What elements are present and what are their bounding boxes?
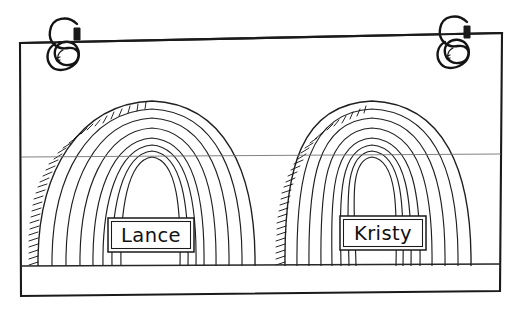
banner-sketch-svg: Lance Kristy — [0, 0, 520, 317]
hook-left-shadow — [74, 28, 80, 40]
plaque-left[interactable]: Lance — [108, 218, 194, 252]
drawing-canvas: Lance Kristy — [0, 0, 520, 317]
plaque-right-label: Kristy — [354, 222, 412, 245]
banner-sheet — [20, 33, 502, 296]
plaque-right[interactable]: Kristy — [340, 216, 426, 250]
hook-right-shadow — [464, 26, 470, 38]
hook-right[interactable] — [438, 17, 470, 68]
hook-left[interactable] — [48, 19, 80, 70]
plaque-left-label: Lance — [121, 224, 181, 247]
